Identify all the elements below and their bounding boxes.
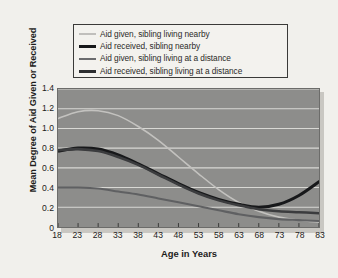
series-line-1 xyxy=(58,148,319,207)
chart-legend: Aid given, sibling living nearby Aid rec… xyxy=(73,24,288,78)
y-tick-label: 0.6 xyxy=(24,163,54,173)
legend-swatch-aid-received-nearby xyxy=(79,45,96,48)
chart-figure: Aid given, sibling living nearby Aid rec… xyxy=(0,0,338,278)
legend-swatch-aid-received-distance xyxy=(79,70,96,73)
legend-swatch-aid-given-distance xyxy=(79,58,96,61)
legend-label: Aid given, sibling living at a distance xyxy=(100,54,231,63)
y-tick-label: 1.4 xyxy=(24,83,54,93)
y-tick-label: 1.0 xyxy=(24,123,54,133)
y-tick-label: 0.4 xyxy=(24,183,54,193)
plot-area xyxy=(57,88,320,228)
legend-item: Aid given, sibling living at a distance xyxy=(79,53,282,65)
legend-item: Aid given, sibling living nearby xyxy=(79,28,282,40)
legend-label: Aid given, sibling living nearby xyxy=(100,30,210,39)
y-axis-ticks: 00.20.40.60.81.01.21.4 xyxy=(22,88,54,228)
x-axis-ticks: 1823283338434853586368737883 xyxy=(57,230,320,244)
legend-item: Aid received, sibling living at a distan… xyxy=(79,65,282,77)
legend-item: Aid received, sibling nearby xyxy=(79,40,282,52)
y-tick-label: 0.8 xyxy=(24,143,54,153)
y-tick-label: 1.2 xyxy=(24,103,54,113)
legend-label: Aid received, sibling nearby xyxy=(100,42,200,51)
y-tick-label: 0.2 xyxy=(24,203,54,213)
legend-label: Aid received, sibling living at a distan… xyxy=(100,67,242,76)
x-axis-title: Age in Years xyxy=(57,248,321,259)
legend-swatch-aid-given-nearby xyxy=(79,33,96,35)
plot-canvas xyxy=(58,89,319,227)
x-tick-label: 83 xyxy=(307,230,333,240)
